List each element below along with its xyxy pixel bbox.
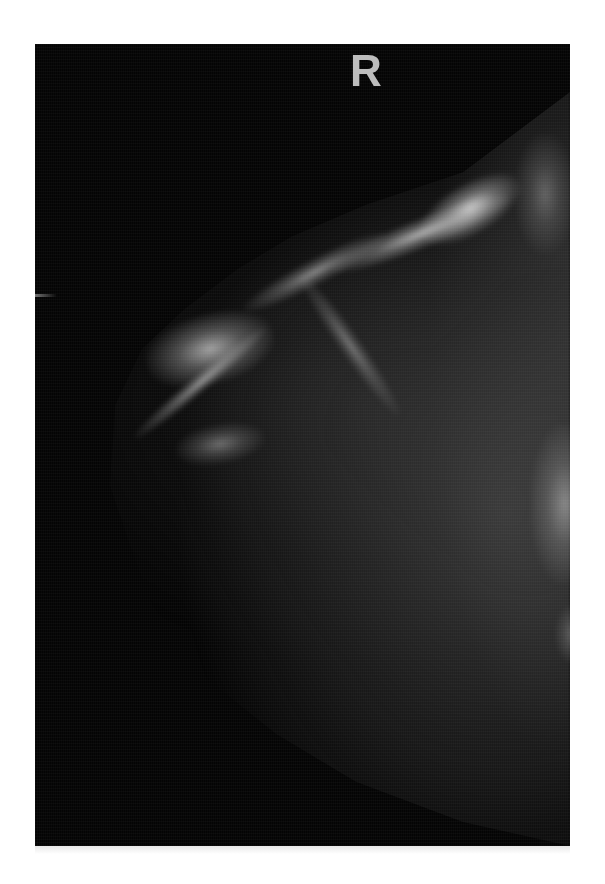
film-bottom-edge bbox=[35, 846, 570, 854]
film-grain bbox=[35, 44, 570, 846]
laterality-marker: R bbox=[350, 49, 382, 93]
mammogram-film: R bbox=[35, 44, 570, 846]
film-edge-artifact bbox=[35, 294, 57, 297]
